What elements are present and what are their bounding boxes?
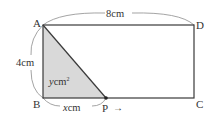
vertex-label-b: B [33,98,40,110]
direction-arrow-icon: → [113,102,123,113]
area-exponent: 2 [67,76,70,82]
point-p [104,96,108,100]
vertex-label-a: A [33,17,41,29]
left-length-label: 4cm [16,57,34,68]
vertex-label-c: C [196,98,203,110]
vertex-label-p: P [102,102,108,114]
area-label: ycm2 [48,76,70,87]
bp-unit: cm [68,102,81,113]
rectangle-diagram: A D B C 8cm 4cm ycm2 xcm P → [0,0,213,121]
bp-length-label: xcm [62,102,81,113]
top-length-label: 8cm [106,8,124,19]
vertex-label-d: D [196,19,204,31]
area-unit: cm [54,76,67,87]
